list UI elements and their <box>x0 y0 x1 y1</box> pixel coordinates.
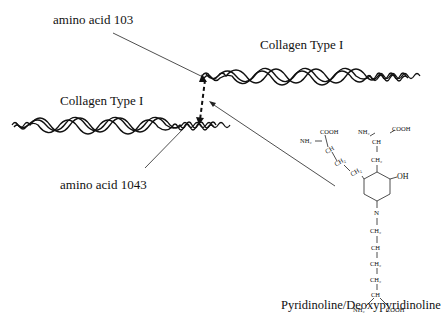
chem-nh2-right: NH₂ <box>358 128 370 135</box>
chem-nh2-bottom: NH₂ <box>353 306 365 313</box>
crosslink-dashed-line <box>200 80 205 120</box>
label-amino-acid-103: amino acid 103 <box>53 12 133 28</box>
chem-nh2-left: NH₂ <box>300 137 312 144</box>
label-amino-acid-1043: amino acid 1043 <box>60 177 147 193</box>
pointer-line-aa1043 <box>145 127 185 168</box>
pointer-line-aa103 <box>113 33 205 78</box>
chem-chain-3: CH₂ <box>370 260 381 267</box>
pointer-line-crosslink <box>211 103 335 186</box>
pyridinoline-structure-bonds <box>315 130 397 306</box>
chem-ch-right: CH <box>372 138 381 145</box>
chem-chain-1: CH₂ <box>370 227 381 234</box>
chem-chain-4: CH₂ <box>370 276 381 283</box>
chem-n: N <box>374 209 379 217</box>
chem-chain-5: CH <box>371 291 380 298</box>
chem-oh: OH <box>397 172 409 181</box>
chem-cooh-left: COOH <box>320 128 338 135</box>
chem-cooh-bottom: COOH <box>386 306 404 313</box>
collagen-helix-right <box>202 68 420 85</box>
chem-cooh-right: COOH <box>392 125 410 132</box>
chem-chain-2: CH <box>371 244 380 251</box>
chem-ch2-right: CH₂ <box>371 156 382 163</box>
label-collagen-type-left: Collagen Type I <box>60 93 143 109</box>
label-collagen-type-right: Collagen Type I <box>260 37 343 53</box>
